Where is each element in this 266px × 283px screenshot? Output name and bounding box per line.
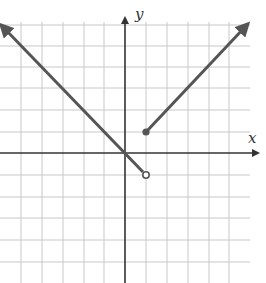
right-ray-y-equals-x [146, 27, 245, 132]
left-ray-y-equals-neg-x [4, 28, 143, 172]
closed-dot-endpoint [142, 128, 149, 135]
y-axis-label: y [134, 5, 144, 23]
open-circle-endpoint [143, 172, 149, 178]
x-axis-label: x [248, 129, 257, 147]
piecewise-graph: y x [0, 0, 266, 283]
